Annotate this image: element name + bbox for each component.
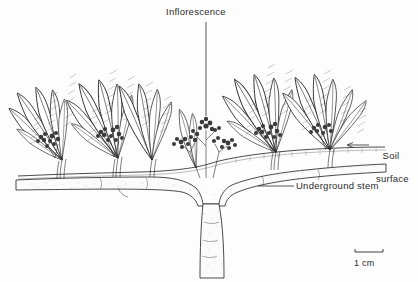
label-soil-surface-line1: Soil [383,150,400,161]
central-inflorescence [172,108,237,178]
scale-bar [355,249,383,252]
rosette-4 [216,64,294,170]
label-underground-stem: Underground stem [296,180,379,192]
leaf-rosettes [3,64,368,178]
rosette-5 [276,70,368,168]
label-scale-bar: 1 cm [354,258,375,270]
label-soil-surface: Soil surface [371,138,409,207]
botanical-figure: Inflorescence Soil surface Underground s… [0,0,418,282]
label-inflorescence: Inflorescence [166,6,226,18]
rosette-2 [60,70,135,177]
illustration-canvas [0,0,418,282]
rosette-1 [3,74,76,178]
